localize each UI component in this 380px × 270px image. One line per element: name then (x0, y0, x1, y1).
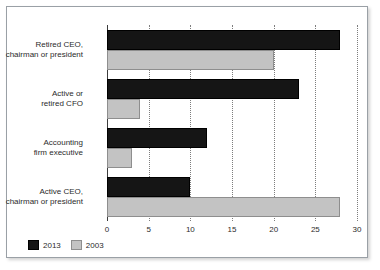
plot-area (107, 25, 357, 221)
figure-frame: Retired CEO, chairman or presidentActive… (6, 6, 368, 258)
gridline-30 (357, 25, 358, 221)
tick-label-15: 15 (228, 225, 237, 234)
bar-group (107, 172, 357, 221)
bar-2013-2 (107, 128, 207, 148)
tick-label-30: 30 (353, 225, 362, 234)
tick-label-0: 0 (105, 225, 109, 234)
bar-2013-3 (107, 177, 190, 197)
legend-item-2003[interactable]: 2003 (71, 240, 104, 250)
bar-group (107, 74, 357, 123)
bar-2003-0 (107, 50, 274, 70)
tick-label-20: 20 (269, 225, 278, 234)
category-label-2: Accounting firm executive (0, 138, 83, 158)
bar-2003-2 (107, 148, 132, 168)
tick-label-5: 5 (146, 225, 150, 234)
tick-label-25: 25 (311, 225, 320, 234)
category-label-3: Active CEO, chairman or president (0, 187, 83, 207)
legend-label-2013: 2013 (43, 241, 61, 250)
category-label-0: Retired CEO, chairman or president (0, 40, 83, 60)
legend-swatch-2013 (28, 240, 39, 250)
bar-2013-0 (107, 30, 340, 50)
legend-label-2003: 2003 (86, 241, 104, 250)
tick-label-10: 10 (186, 225, 195, 234)
bar-2003-1 (107, 99, 140, 119)
legend-swatch-2003 (71, 240, 82, 250)
chart-legend: 20132003 (28, 240, 104, 250)
bar-2013-1 (107, 79, 299, 99)
legend-item-2013[interactable]: 2013 (28, 240, 61, 250)
bar-group (107, 25, 357, 74)
bar-group (107, 123, 357, 172)
category-label-1: Active or retired CFO (0, 89, 83, 109)
bar-2003-3 (107, 197, 340, 217)
chart-figure: Retired CEO, chairman or presidentActive… (0, 0, 380, 270)
